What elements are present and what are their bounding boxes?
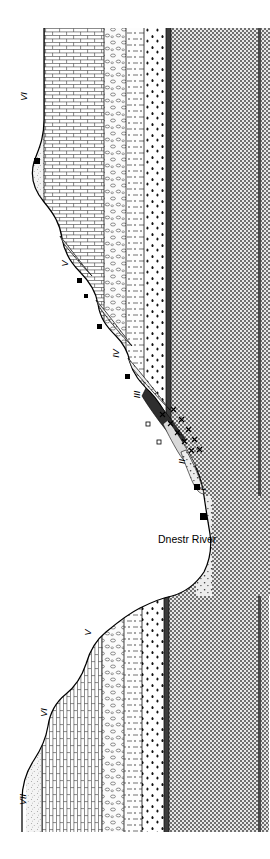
terrace-label-vi-upper: VI: [20, 92, 29, 101]
geological-cross-section-figure: VI V IV III II I V VI VII Dnestr River: [0, 0, 270, 859]
river-name-label: Dnestr River: [158, 534, 216, 545]
terrace-label-vii: VII: [19, 794, 28, 805]
terrace-label-ii: II: [178, 459, 187, 464]
cross-section-drawing: [0, 0, 270, 859]
terrace-label-v-lower: V: [84, 629, 93, 635]
terrace-label-i: I: [199, 488, 208, 491]
terrace-label-iv: IV: [112, 349, 121, 358]
terrace-label-v-upper: V: [61, 260, 70, 266]
lower-valley-side: [26, 596, 269, 846]
terrace-label-iii: III: [133, 391, 142, 399]
upper-valley-side: [30, 20, 270, 520]
terrace-label-vi-lower: VI: [40, 708, 49, 717]
valley-floor: [170, 490, 270, 600]
